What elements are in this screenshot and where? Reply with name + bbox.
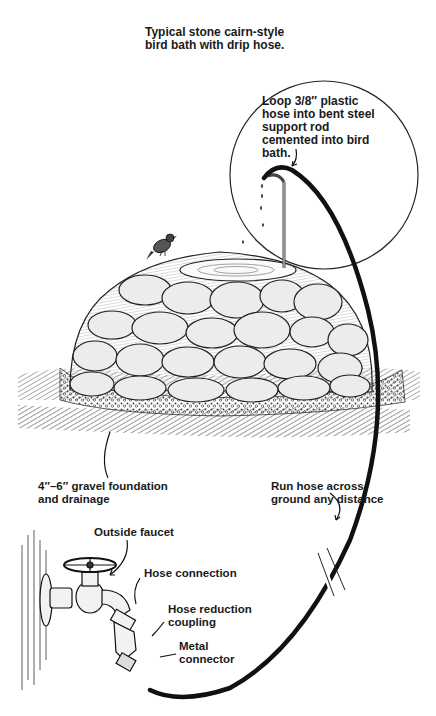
loop-hose-label: Loop 3/8″ plastic hose into bent steel s… <box>262 95 375 160</box>
hose-connection-label: Hose connection <box>144 567 237 580</box>
outside-faucet-label: Outside faucet <box>94 526 174 539</box>
faucet-icon <box>40 558 136 671</box>
bird-icon <box>146 234 177 260</box>
stone-cairn <box>70 252 372 402</box>
gravel-foundation-label: 4″–6″ gravel foundation and drainage <box>38 480 168 506</box>
metal-connector-label: Metal connector <box>179 640 235 666</box>
diagram-title: Typical stone cairn-style bird bath with… <box>145 26 284 52</box>
run-hose-label: Run hose across ground any distance <box>271 480 383 506</box>
water-drips <box>242 184 264 244</box>
hose-reduction-label: Hose reduction coupling <box>168 603 252 629</box>
